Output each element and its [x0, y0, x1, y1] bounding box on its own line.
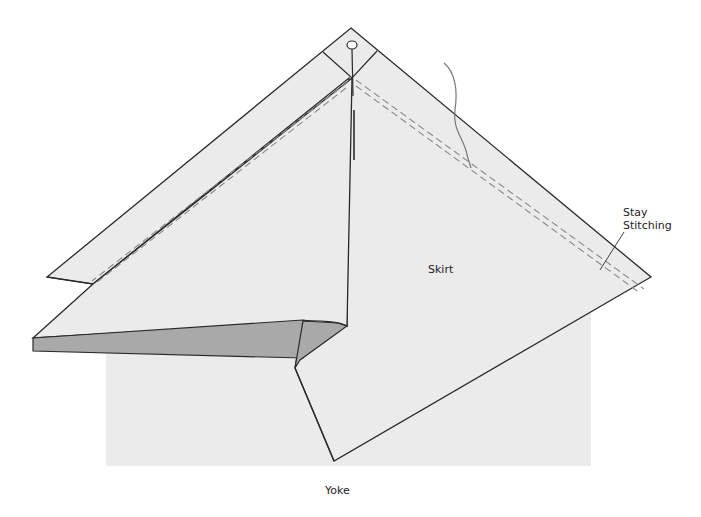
skirt-yoke-diagram: Skirt Stay Stitching Yoke	[0, 0, 701, 517]
label-stay-line1: Stay	[623, 206, 648, 219]
label-stay-line2: Stitching	[623, 219, 672, 232]
label-yoke: Yoke	[324, 484, 350, 497]
front-flap	[33, 78, 352, 338]
label-skirt: Skirt	[428, 263, 454, 276]
